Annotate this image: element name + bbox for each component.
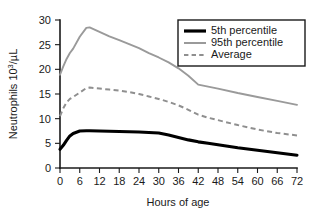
legend-label-average: Average	[211, 48, 252, 60]
x-tick-label-42: 42	[192, 175, 204, 187]
x-tick-label-72: 72	[291, 175, 303, 187]
y-tick-label-20: 20	[39, 63, 51, 75]
y-tick-label-0: 0	[45, 162, 51, 174]
y-tick-label-10: 10	[39, 113, 51, 125]
y-axis-title-main: Neutrophils 10	[7, 68, 19, 139]
x-tick-label-0: 0	[57, 175, 63, 187]
y-tick-label-15: 15	[39, 88, 51, 100]
x-axis-title: Hours of age	[147, 196, 210, 208]
x-tick-label-54: 54	[232, 175, 244, 187]
x-tick-label-48: 48	[212, 175, 224, 187]
x-tick-label-12: 12	[93, 175, 105, 187]
chart-svg: 0 5 10 15 20 25 30 Neutrophils 103/µL	[0, 0, 318, 223]
legend-label-95th-percentile: 95th percentile	[211, 36, 283, 48]
x-tick-label-36: 36	[172, 175, 184, 187]
y-axis-title: Neutrophils 103/µL	[6, 49, 19, 140]
x-tick-label-60: 60	[251, 175, 263, 187]
series-line-5th-percentile	[60, 131, 297, 155]
x-tick-labels: 0 6 12 18 24 30 36 42 48 54 60 66 72	[57, 175, 303, 187]
x-tick-label-24: 24	[133, 175, 145, 187]
x-axis: 0 6 12 18 24 30 36 42 48 54 60 66 72 Hou…	[57, 168, 303, 208]
x-tick-label-6: 6	[77, 175, 83, 187]
y-tick-label-25: 25	[39, 39, 51, 51]
legend: 5th percentile 95th percentile Average	[178, 20, 305, 66]
legend-label-5th-percentile: 5th percentile	[211, 24, 277, 36]
x-tick-label-18: 18	[113, 175, 125, 187]
y-axis: 0 5 10 15 20 25 30 Neutrophils 103/µL	[6, 14, 60, 174]
y-tick-label-5: 5	[45, 137, 51, 149]
x-tick-label-30: 30	[153, 175, 165, 187]
y-tick-labels: 0 5 10 15 20 25 30	[39, 14, 51, 174]
series-line-average	[60, 88, 297, 136]
y-axis-title-tail: /µL	[7, 49, 19, 65]
y-tick-label-30: 30	[39, 14, 51, 26]
x-tick-label-66: 66	[271, 175, 283, 187]
neutrophil-reference-chart: 0 5 10 15 20 25 30 Neutrophils 103/µL	[0, 0, 318, 223]
